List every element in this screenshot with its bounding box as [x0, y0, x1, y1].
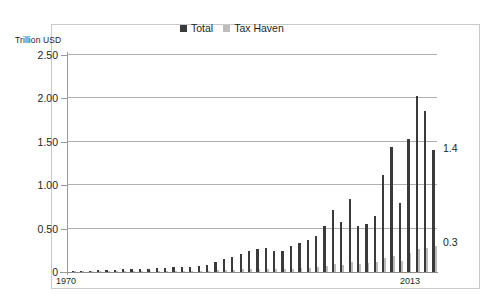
bar-total: [147, 269, 149, 272]
annotation-tax-haven-value: 0.3: [443, 236, 458, 248]
bar-total: [298, 243, 300, 273]
y-tick-label-0: 0: [14, 267, 58, 277]
chart-container: Total Tax Haven Trillion USD 00.501.001.…: [0, 0, 496, 307]
bar-total: [374, 216, 376, 272]
annotation-total-value: 1.4: [443, 142, 458, 154]
bar-total: [323, 226, 325, 272]
legend-swatch-total: [180, 25, 187, 32]
y-axis-title: Trillion USD: [15, 35, 61, 45]
bar-total: [357, 226, 359, 272]
gridline-1-5: [68, 141, 437, 142]
chart-plot-area: [68, 55, 437, 272]
bar-total: [256, 249, 258, 272]
y-tick-label-3: 1.50: [14, 137, 58, 147]
bar-total: [231, 257, 233, 272]
bar-total: [290, 246, 292, 272]
y-tick-mark-1: [61, 229, 68, 230]
bar-total: [424, 111, 426, 272]
bar-total: [265, 248, 267, 272]
bar-total: [189, 267, 191, 272]
bar-total: [223, 259, 225, 272]
bar-total: [198, 266, 200, 272]
bar-total: [332, 210, 334, 272]
bar-total: [114, 270, 116, 272]
x-axis-label-end: 2013: [400, 276, 420, 286]
gridline-2-5: [68, 54, 437, 55]
y-tick-mark-3: [61, 142, 68, 143]
y-tick-label-5: 2.50: [14, 50, 58, 60]
bar-total: [97, 270, 99, 272]
bar-total: [156, 268, 158, 272]
bar-total: [416, 96, 418, 272]
legend-item-tax-haven[interactable]: Tax Haven: [223, 23, 284, 34]
bar-total: [105, 270, 107, 272]
y-tick-mark-2: [61, 185, 68, 186]
bar-total: [248, 251, 250, 272]
legend-label-total: Total: [191, 23, 213, 34]
bar-total: [181, 267, 183, 272]
bar-total: [407, 139, 409, 272]
y-tick-label-2: 1.00: [14, 180, 58, 190]
bar-total: [432, 150, 434, 272]
chart-legend: Total Tax Haven: [180, 20, 340, 36]
legend-label-tax-haven: Tax Haven: [234, 23, 284, 34]
bar-total: [307, 240, 309, 272]
bar-total: [172, 267, 174, 272]
bar-total: [273, 251, 275, 272]
bar-total: [164, 268, 166, 272]
bar-total: [315, 236, 317, 272]
legend-item-total[interactable]: Total: [180, 23, 213, 34]
y-tick-mark-0: [61, 272, 68, 273]
y-tick-label-1: 0.50: [14, 224, 58, 234]
bar-total: [80, 271, 82, 272]
y-tick-mark-5: [61, 55, 68, 56]
y-tick-label-4: 2.00: [14, 93, 58, 103]
bar-total: [214, 262, 216, 272]
bar-total: [281, 251, 283, 272]
bar-total: [399, 203, 401, 272]
x-axis-line: [60, 272, 438, 273]
y-tick-mark-4: [61, 98, 68, 99]
bar-total: [349, 199, 351, 272]
bar-total: [382, 175, 384, 272]
bar-total: [240, 254, 242, 272]
bar-total: [390, 147, 392, 272]
x-axis-label-start: 1970: [56, 276, 76, 286]
bar-total: [206, 265, 208, 272]
bar-total: [72, 271, 74, 272]
gridline-2: [68, 97, 437, 98]
bar-total: [130, 269, 132, 272]
bar-total: [365, 224, 367, 272]
bar-total: [340, 222, 342, 272]
bar-total: [139, 269, 141, 272]
bar-total: [89, 271, 91, 272]
bar-total: [122, 269, 124, 272]
legend-swatch-tax-haven: [223, 25, 230, 32]
